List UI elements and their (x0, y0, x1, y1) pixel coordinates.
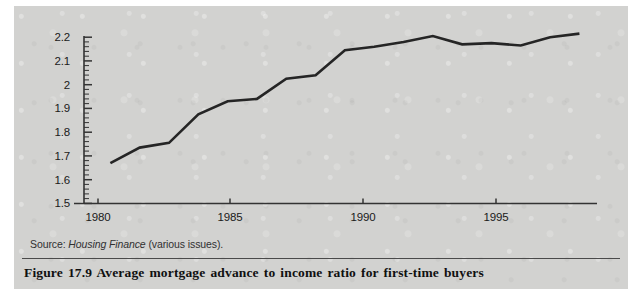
y-tick-label-2: 2 (36, 79, 70, 91)
x-tick-label-1985: 1985 (208, 211, 252, 223)
y-tick-label-1.5: 1.5 (36, 197, 70, 209)
source-note: Source: Housing Finance (various issues)… (30, 238, 223, 250)
caption-divider (22, 258, 620, 259)
y-tick-label-1.7: 1.7 (36, 150, 70, 162)
figure-caption: Figure 17.9 Average mortgage advance to … (24, 265, 484, 281)
source-prefix: Source: (30, 238, 68, 250)
x-tick-label-1980: 1980 (76, 211, 120, 223)
y-axis-major-ticks (84, 37, 92, 203)
x-tick-label-1995: 1995 (474, 211, 518, 223)
y-tick-label-2.2: 2.2 (36, 31, 70, 43)
source-publication: Housing Finance (68, 238, 145, 250)
x-tick-label-1990: 1990 (341, 211, 385, 223)
figure-container: 2.2 2.1 2 1.9 1.8 1.7 1.6 1.5 1980 1985 … (0, 0, 642, 293)
y-tick-label-1.6: 1.6 (36, 174, 70, 186)
y-tick-label-2.1: 2.1 (36, 55, 70, 67)
scanned-page-panel: 2.2 2.1 2 1.9 1.8 1.7 1.6 1.5 1980 1985 … (14, 6, 628, 289)
y-tick-label-1.9: 1.9 (36, 102, 70, 114)
source-suffix: (various issues). (146, 238, 224, 250)
y-tick-label-1.8: 1.8 (36, 126, 70, 138)
data-series-line (110, 34, 579, 163)
